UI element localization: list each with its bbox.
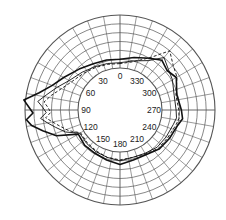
polar-chart: 0306090120150180210240270300330 (0, 0, 226, 220)
grid-spoke (88, 149, 106, 199)
grid-spoke (134, 21, 152, 71)
angle-label: 30 (98, 76, 108, 86)
polar-grid (25, 15, 215, 205)
angle-labels: 0306090120150180210240270300330 (81, 71, 161, 149)
grid-spoke (47, 137, 88, 171)
angle-label: 90 (81, 105, 91, 115)
angle-label: 240 (142, 122, 156, 132)
grid-spoke (134, 149, 152, 199)
grid-spoke (47, 49, 88, 83)
angle-label: 330 (130, 76, 144, 86)
angle-label: 180 (113, 139, 127, 149)
angle-label: 210 (130, 134, 144, 144)
angle-label: 270 (147, 105, 161, 115)
grid-spoke (152, 49, 193, 83)
grid-spoke (147, 142, 181, 183)
angle-label: 150 (96, 134, 110, 144)
polar-chart-svg: 0306090120150180210240270300330 (0, 0, 226, 220)
grid-spoke (159, 124, 209, 142)
angle-label: 0 (118, 71, 123, 81)
grid-spoke (156, 63, 202, 90)
grid-spoke (59, 37, 93, 78)
grid-spoke (141, 28, 168, 74)
angle-label: 60 (86, 88, 96, 98)
angle-label: 120 (84, 122, 98, 132)
grid-spoke (159, 78, 209, 96)
grid-spoke (152, 137, 193, 171)
angle-label: 300 (142, 88, 156, 98)
